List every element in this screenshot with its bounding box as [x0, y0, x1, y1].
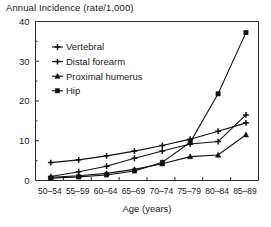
series-distal-forearm — [48, 112, 249, 179]
legend-item-vertebral: Vertebral — [52, 41, 104, 52]
legend-item-distal-forearm: Distal forearm — [52, 56, 125, 67]
data-point-marker — [49, 176, 53, 180]
data-point-marker — [132, 155, 138, 161]
chart-legend: VertebralDistal forearmProximal humerusH… — [52, 41, 143, 96]
incidence-line-chart: 010203040 50–5455–5960–6465–6970–7475–79… — [0, 0, 271, 227]
x-tick-label: 65–69 — [122, 186, 146, 196]
x-tick-label: 70–74 — [150, 186, 174, 196]
data-point-marker — [159, 148, 165, 154]
x-axis-tick-labels: 50–5455–5960–6465–6970–7475–7980–8485–89 — [38, 186, 257, 196]
x-tick-label: 85–89 — [233, 186, 257, 196]
legend-marker — [55, 44, 61, 50]
data-point-marker — [243, 120, 249, 126]
legend-marker — [55, 59, 61, 65]
x-tick-label: 75–79 — [177, 186, 201, 196]
legend-label: Proximal humerus — [66, 71, 143, 82]
data-point-marker — [104, 153, 110, 159]
data-point-marker — [76, 157, 82, 163]
legend-marker — [55, 89, 59, 93]
data-point-marker — [48, 160, 54, 166]
data-point-marker — [104, 173, 108, 177]
data-point-marker — [159, 143, 165, 149]
x-axis-title: Age (years) — [122, 203, 171, 214]
data-point-marker — [104, 163, 110, 169]
legend-item-proximal-humerus: Proximal humerus — [52, 71, 143, 82]
legend-item-hip: Hip — [52, 85, 80, 96]
y-tick-label: 0 — [24, 175, 29, 186]
x-tick-label: 80–84 — [205, 186, 229, 196]
y-axis-tick-labels: 010203040 — [19, 16, 30, 186]
y-tick-label: 30 — [19, 56, 30, 67]
x-axis-tick-marks — [63, 177, 230, 181]
x-tick-label: 60–64 — [94, 186, 118, 196]
legend-label: Vertebral — [66, 41, 104, 52]
legend-label: Distal forearm — [66, 56, 125, 67]
data-point-marker — [216, 92, 220, 96]
series-layer — [48, 31, 249, 181]
y-tick-label: 40 — [19, 16, 30, 27]
data-point-marker — [77, 175, 81, 179]
data-point-marker — [132, 169, 136, 173]
data-point-marker — [132, 148, 138, 154]
y-tick-label: 20 — [19, 95, 30, 106]
legend-label: Hip — [66, 85, 80, 96]
data-point-marker — [188, 140, 192, 144]
data-point-marker — [243, 132, 248, 137]
data-point-marker — [215, 128, 221, 134]
data-point-marker — [244, 31, 248, 35]
y-tick-label: 10 — [19, 135, 30, 146]
series-line — [51, 115, 246, 177]
chart-container: Annual Incidence (rate/1,000) 010203040 … — [0, 0, 271, 227]
y-axis-tick-marks — [36, 22, 40, 181]
x-tick-label: 50–54 — [38, 186, 62, 196]
data-point-marker — [160, 160, 164, 164]
x-tick-label: 55–59 — [66, 186, 90, 196]
